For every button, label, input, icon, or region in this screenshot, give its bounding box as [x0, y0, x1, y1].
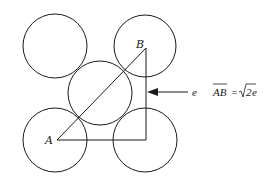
point-label-b: B	[135, 38, 144, 51]
formula-ab-equals-sqrt2-e: AB = 2 e	[212, 84, 257, 98]
circle-top-right	[114, 15, 176, 77]
edge-label-e: e	[192, 86, 197, 98]
circle-packing-diagram: A B e AB = 2 e	[0, 0, 274, 182]
formula-suffix: e	[252, 86, 257, 98]
formula-equals: =	[231, 87, 238, 98]
point-label-a: A	[44, 134, 53, 147]
circle-center	[68, 61, 132, 125]
diagonal-ab	[57, 48, 146, 140]
circle-top-left	[23, 14, 87, 78]
formula-lhs: AB	[212, 86, 227, 98]
arrow-head-icon	[147, 88, 158, 96]
